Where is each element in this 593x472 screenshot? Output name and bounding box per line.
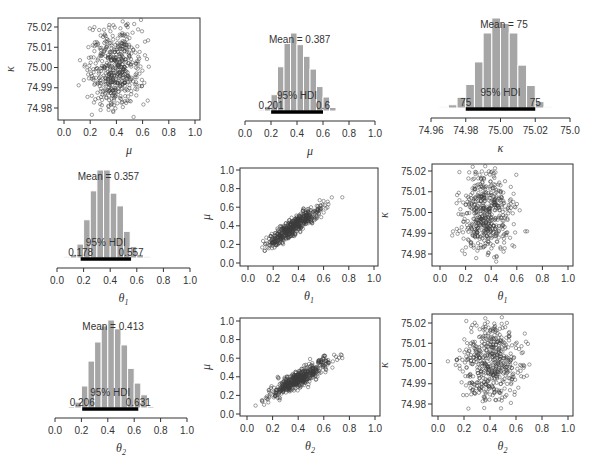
x-tick-label: 0.4 [483,423,497,434]
y-tick-label: 0.0 [220,258,234,269]
axis-label: θ2 [305,439,315,455]
hdi-low-value: 0.201 [259,100,284,111]
x-tick-label: 0.8 [535,423,549,434]
histogram-bar [110,193,117,258]
histogram-bar [544,107,553,108]
hdi-label: 95% HDI [90,387,130,398]
mean-label: Mean = 0.413 [82,321,144,332]
y-tick-label: 0.8 [220,334,234,345]
x-tick-label: 0.4 [291,273,305,284]
x-tick-label: 1.0 [183,275,197,286]
x-tick-label: 0.0 [57,127,71,138]
x-tick-label: 0.2 [74,425,88,436]
x-tick-label: 0.0 [238,128,252,139]
y-tick-label: 0.4 [220,371,234,382]
scatter-points [446,316,531,411]
x-tick-label: 0.2 [264,128,278,139]
y-tick-label: 0.2 [220,390,234,401]
x-tick-label: 0.0 [241,273,255,284]
panel-scatter-theta1-kappa: 0.00.20.40.60.81.074.9874.9975.0075.0175… [377,164,575,305]
hdi-high-value: 0.6 [316,100,330,111]
y-tick-label: 0.2 [220,239,234,250]
y-tick-label: 0.4 [220,220,234,231]
x-tick-label: 0.6 [509,423,523,434]
y-tick-label: 0.6 [220,202,234,213]
x-tick-label: 0.8 [342,273,356,284]
x-tick-label: 0.2 [459,273,473,284]
x-tick-label: 0.2 [266,273,280,284]
x-tick-label: 1.0 [367,273,381,284]
scatter-points [77,18,151,119]
x-tick-label: 1.0 [188,127,202,138]
axis-label: θ1 [119,291,129,307]
x-tick-label: 0.6 [317,273,331,284]
y-tick-label: 74.99 [27,82,52,93]
x-tick-label: 0.6 [510,273,524,284]
y-tick-label: 74.98 [27,103,52,114]
hdi-label: 95% HDI [480,87,520,98]
x-tick-label: 0.4 [290,128,304,139]
histogram-bar [448,105,457,108]
histogram-bar [330,108,337,111]
axis-label: μ [199,364,213,371]
x-tick-label: 75.00 [488,125,513,136]
x-tick-label: 0.2 [266,423,280,434]
y-tick-label: 75.02 [401,318,426,329]
x-tick-label: 0.6 [130,275,144,286]
axis-label: κ [3,66,17,72]
x-tick-label: 75.0 [560,125,580,136]
hdi-high-value: 0.557 [119,247,144,258]
histogram-bar [304,56,311,111]
y-tick-label: 0.0 [220,409,234,420]
x-tick-label: 75.02 [523,125,548,136]
axis-label: κ [498,141,504,155]
scatter-points [254,353,344,408]
histogram-bar [474,62,483,108]
y-tick-label: 74.99 [401,228,426,239]
x-tick-label: 0.8 [342,423,356,434]
y-tick-label: 74.99 [401,378,426,389]
scatter-points [451,165,529,264]
x-tick-label: 1.0 [561,273,575,284]
x-tick-label: 0.6 [317,423,331,434]
x-tick-label: 1.0 [368,128,382,139]
axis-label: μ [199,214,213,221]
posterior-pairs-figure: 0.00.20.40.60.81.074.9874.9975.0075.0175… [0,0,593,472]
x-tick-label: 0.8 [342,128,356,139]
hdi-low-value: 75 [460,97,472,108]
x-tick-label: 0.0 [240,423,254,434]
panel-hist-theta2: 95% HDI0.2060.631Mean = 0.4130.00.20.40.… [48,320,194,457]
mean-label: Mean = 75 [480,19,528,30]
panel-scatter-theta1-mu: 0.00.20.40.60.81.00.00.20.40.60.81.0θ1μ [199,165,381,306]
axis-label: θ1 [304,289,314,305]
panel-scatter-theta2-kappa: 0.00.20.40.60.81.074.9874.9975.0075.0175… [377,314,575,455]
axis-label: μ [306,144,313,158]
x-tick-label: 0.4 [484,273,498,284]
scatter-points [261,196,344,253]
x-tick-label: 0.4 [101,425,115,436]
mean-label: Mean = 0.387 [269,34,331,45]
x-tick-label: 0.8 [156,275,170,286]
y-tick-label: 75.01 [401,186,426,197]
mean-label: Mean = 0.357 [78,171,140,182]
x-tick-label: 74.96 [418,125,443,136]
y-tick-label: 75.00 [401,207,426,218]
axis-label: θ1 [498,289,508,305]
x-tick-label: 0.6 [316,128,330,139]
x-tick-label: 1.0 [180,425,194,436]
x-tick-label: 0.0 [433,273,447,284]
y-tick-label: 75.00 [401,358,426,369]
histogram-bar [95,342,102,408]
x-tick-label: 74.98 [453,125,478,136]
x-tick-label: 0.4 [109,127,123,138]
x-tick-label: 0.0 [48,425,62,436]
x-tick-label: 0.2 [77,275,91,286]
y-tick-label: 0.8 [220,183,234,194]
x-tick-label: 0.2 [83,127,97,138]
x-tick-label: 0.0 [50,275,64,286]
y-tick-label: 74.98 [401,249,426,260]
y-tick-label: 75.00 [27,62,52,73]
axis-label: θ2 [116,441,126,457]
histogram-bar [297,45,304,111]
hdi-high-value: 75 [530,97,542,108]
